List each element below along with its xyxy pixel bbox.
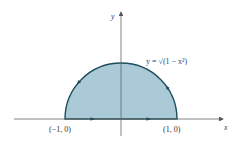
x-axis-label: x [223,123,228,132]
point-label-right: (1, 0) [163,125,181,134]
curve-equation-label: y = √(1 − x²) [146,57,187,66]
diagram-canvas: y x y = √(1 − x²) (−1, 0) (1, 0) [0,0,239,143]
y-axis-label: y [110,12,115,21]
point-label-left: (−1, 0) [49,125,71,134]
